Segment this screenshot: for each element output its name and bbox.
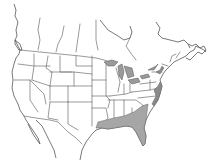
range-map — [0, 0, 212, 160]
us-canada-border — [20, 50, 110, 62]
coastline — [12, 4, 206, 160]
province-borders — [38, 18, 136, 60]
